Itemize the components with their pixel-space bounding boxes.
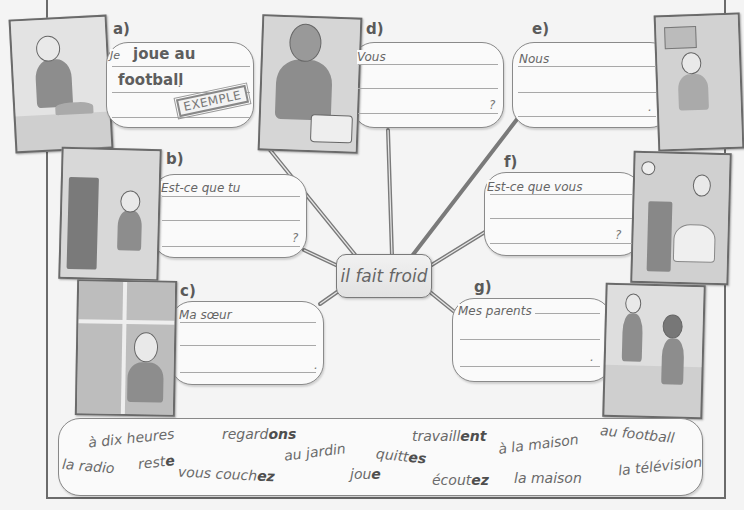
word-bank-item: joue [350,466,381,482]
item-label: e) [532,20,549,38]
picture-couple-at-home [654,13,744,152]
item-label: c) [180,282,196,300]
end-punctuation: . [314,358,318,372]
answer-line [358,113,498,114]
answer-line [518,116,656,117]
end-punctuation: ? [292,231,298,245]
item-label: a) [113,20,130,38]
item-label: b) [166,150,184,168]
answer-prompt: Mes parents [458,304,535,318]
answer-prompt: Vous [357,50,389,64]
word-bank-item: regardons [222,426,296,442]
word-bank-item: la maison [514,470,582,486]
center-topic: il fait froid [336,254,432,298]
item-label: f) [504,153,517,171]
end-punctuation: . [648,100,652,114]
word-bank-item: travaillent [412,428,487,444]
end-punctuation: ? [615,228,621,242]
example-answer-line2: football [118,71,183,89]
answer-line [518,66,656,67]
word-bank-item: écoutez [432,472,489,488]
end-punctuation: ? [489,98,495,112]
example-answer-line1: joue au [133,45,195,63]
answer-prompt: Nous [519,52,552,66]
answer-prompt: Ma sœur [179,308,235,322]
answer-line [162,196,300,197]
answer-line [490,243,632,244]
answer-prompt: Est-ce que tu [161,181,243,195]
answer-line [518,92,656,93]
answer-line [460,339,600,340]
picture-man-singing-with-radio [258,14,363,153]
picture-sister-at-window [75,279,177,417]
picture-parents-gardening [602,283,705,420]
answer-line [112,66,250,67]
picture-person-with-dog [630,151,731,286]
end-punctuation: . [590,350,594,364]
answer-line [180,345,316,346]
answer-line [358,88,498,89]
answer-prompt: Est-ce que vous [487,180,585,194]
item-label: d) [366,20,384,38]
item-label: g) [474,278,492,296]
end-punctuation: . [178,76,182,90]
answer-line [162,220,300,221]
picture-boy-playing-football [9,15,114,154]
answer-line [112,117,250,118]
answer-line [180,372,316,373]
answer-line [490,194,632,195]
answer-line [162,246,300,247]
answer-line [460,366,600,367]
answer-line [180,322,316,323]
answer-prompt: Je [110,49,123,62]
picture-girl-leaving-house [58,147,161,282]
answer-line [358,64,498,65]
answer-line [490,218,632,219]
